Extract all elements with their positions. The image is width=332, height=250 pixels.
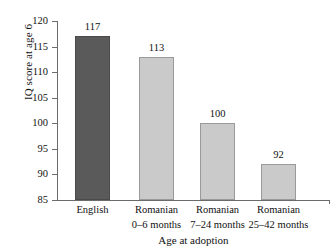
y-axis-tick-mark [52, 200, 57, 201]
y-axis-tick-mark [52, 123, 57, 124]
y-axis-tick-mark [52, 72, 57, 73]
bar [75, 36, 110, 200]
bar-chart: IQ score at age 6 120115110105100959085 … [0, 0, 332, 250]
bar [200, 123, 235, 200]
bar [261, 164, 296, 200]
y-axis-line [57, 21, 58, 201]
y-axis-tick-mark [52, 47, 57, 48]
x-axis-category-label: Romanian [240, 205, 318, 216]
y-axis-tick-label: 95 [4, 144, 48, 155]
bar-value-label: 92 [257, 150, 301, 161]
bar-value-label: 100 [196, 109, 240, 120]
x-axis-end-cap [329, 200, 330, 204]
x-axis-title: Age at adoption [57, 234, 330, 246]
y-axis-tick-label: 90 [4, 169, 48, 180]
bar [139, 57, 174, 200]
x-axis-line [57, 200, 330, 201]
y-axis-tick-label: 120 [4, 16, 48, 27]
y-axis-tick-mark [52, 98, 57, 99]
bar-value-label: 117 [71, 22, 115, 33]
y-axis-tick-label: 85 [4, 195, 48, 206]
y-axis-tick-label: 115 [4, 42, 48, 53]
y-axis-tick-label: 100 [4, 118, 48, 129]
x-axis-category-sublabel: 25–42 months [236, 220, 322, 231]
y-axis-tick-label: 105 [4, 93, 48, 104]
y-axis-tick-mark [52, 21, 57, 22]
bar-value-label: 113 [135, 43, 179, 54]
y-axis-tick-mark [52, 149, 57, 150]
y-axis-tick-mark [52, 174, 57, 175]
y-axis-tick-label: 110 [4, 67, 48, 78]
